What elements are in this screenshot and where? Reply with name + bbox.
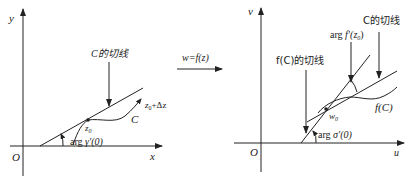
mapping-arrow-group: w=f(z) xyxy=(177,52,222,69)
origin-label: O xyxy=(12,151,20,163)
point-z0 xyxy=(86,118,90,122)
curve-fC-label: f(C) xyxy=(375,101,393,114)
u-axis-label: u xyxy=(394,147,399,158)
x-axis-label: x xyxy=(149,150,155,162)
tangent-fC-label: f(C)的切线 xyxy=(276,54,324,66)
curve-C-label: C xyxy=(131,113,139,125)
angle-arc-sigma xyxy=(313,131,316,143)
mapping-label: w=f(z) xyxy=(182,52,209,64)
angle-arc-gamma xyxy=(61,134,63,146)
v-axis-label: v xyxy=(248,5,253,17)
tangent-label: C的切线 xyxy=(91,48,129,59)
rotation-arc xyxy=(351,80,357,92)
origin-label-w: O xyxy=(250,146,258,158)
angle-label-gamma: arg γ′(0) xyxy=(70,136,104,148)
angle-label-sigma: arg σ′(0) xyxy=(318,129,353,141)
w-plane-panel: v u O arg f′(z0) C的切线 f(C)的切线 f(C) w0 xyxy=(234,5,404,172)
tangent-C-label: C的切线 xyxy=(363,14,400,26)
point-w0 xyxy=(324,107,328,111)
point-w0-label: w0 xyxy=(329,111,338,122)
rotation-label: arg f′(z0) xyxy=(330,29,364,41)
z-plane-panel: y x O C的切线 C z0 z0+Δz arg γ′(0) xyxy=(8,9,166,176)
y-axis-label: y xyxy=(8,12,14,24)
conformal-mapping-diagram: y x O C的切线 C z0 z0+Δz arg γ′(0) w=f(z) xyxy=(0,0,411,181)
point-z0-label: z0 xyxy=(84,123,92,134)
point-z0-dz-label: z0+Δz xyxy=(144,100,166,111)
